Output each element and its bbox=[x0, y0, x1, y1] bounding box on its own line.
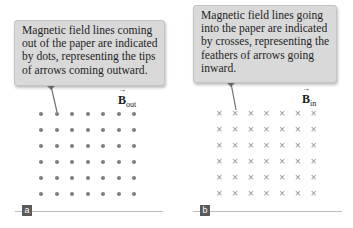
dot-icon bbox=[86, 176, 90, 180]
dot-icon bbox=[70, 192, 74, 196]
cross-icon: × bbox=[295, 109, 302, 119]
cross-icon: × bbox=[216, 141, 223, 151]
cross-icon: × bbox=[232, 141, 239, 151]
vector-subscript: out bbox=[126, 100, 136, 109]
cross-icon: × bbox=[263, 173, 270, 183]
dot-icon bbox=[70, 112, 74, 116]
cross-icon: × bbox=[279, 141, 286, 151]
dot-icon bbox=[101, 160, 105, 164]
vector-symbol: B bbox=[118, 93, 126, 107]
vector-b-out-label: → Bout bbox=[118, 93, 136, 108]
dot-icon bbox=[55, 160, 59, 164]
dot-icon bbox=[117, 160, 121, 164]
dot-icon bbox=[55, 128, 59, 132]
dot-icon bbox=[101, 112, 105, 116]
dot-icon bbox=[132, 192, 136, 196]
callout-a-line: by dots, representing the tips bbox=[22, 50, 158, 63]
callout-b-line: by crosses, representing the bbox=[201, 35, 330, 48]
vector-b-in-label: → Bin bbox=[302, 92, 316, 107]
cross-icon: × bbox=[279, 109, 286, 119]
callout-a-line: Magnetic field lines coming bbox=[22, 24, 158, 37]
dot-icon bbox=[132, 176, 136, 180]
cross-icon: × bbox=[247, 125, 254, 135]
callout-b-line: Magnetic field lines going bbox=[201, 9, 330, 22]
cross-icon: × bbox=[310, 157, 317, 167]
panel-b: Magnetic field lines going into the pape… bbox=[176, 0, 353, 228]
dot-icon bbox=[70, 144, 74, 148]
cross-icon: × bbox=[310, 125, 317, 135]
cross-icon: × bbox=[279, 157, 286, 167]
cross-icon: × bbox=[216, 189, 223, 199]
cross-icon: × bbox=[263, 125, 270, 135]
dot-icon bbox=[117, 112, 121, 116]
vector-arrow-icon: → bbox=[302, 84, 310, 93]
cross-icon: × bbox=[310, 189, 317, 199]
callout-a: Magnetic field lines coming out of the p… bbox=[14, 20, 165, 86]
dot-icon bbox=[117, 192, 121, 196]
panel-a: Magnetic field lines coming out of the p… bbox=[0, 0, 176, 228]
cross-icon: × bbox=[279, 189, 286, 199]
dot-icon bbox=[55, 112, 59, 116]
cross-icon: × bbox=[263, 109, 270, 119]
cross-icon: × bbox=[232, 157, 239, 167]
panel-label-b: b bbox=[200, 205, 210, 216]
dot-icon bbox=[55, 192, 59, 196]
callout-b-line: inward. bbox=[201, 62, 330, 75]
dot-icon bbox=[39, 112, 43, 116]
cross-icon: × bbox=[216, 173, 223, 183]
dot-icon bbox=[39, 176, 43, 180]
cross-icon: × bbox=[247, 157, 254, 167]
dot-icon bbox=[70, 176, 74, 180]
dot-icon bbox=[132, 144, 136, 148]
dot-icon bbox=[132, 112, 136, 116]
dot-icon bbox=[70, 160, 74, 164]
cross-icon: × bbox=[263, 189, 270, 199]
dot-icon bbox=[55, 144, 59, 148]
cross-icon: × bbox=[232, 189, 239, 199]
cross-icon: × bbox=[247, 109, 254, 119]
dot-icon bbox=[132, 160, 136, 164]
cross-icon: × bbox=[279, 125, 286, 135]
dot-icon bbox=[39, 144, 43, 148]
cross-icon: × bbox=[295, 141, 302, 151]
cross-icon: × bbox=[232, 125, 239, 135]
cross-icon: × bbox=[310, 173, 317, 183]
cross-icon: × bbox=[247, 173, 254, 183]
cross-icon: × bbox=[295, 189, 302, 199]
cross-icon: × bbox=[295, 157, 302, 167]
vector-symbol: B bbox=[302, 92, 310, 106]
cross-icon: × bbox=[232, 173, 239, 183]
dot-icon bbox=[39, 128, 43, 132]
dot-icon bbox=[117, 144, 121, 148]
callout-a-line: out of the paper are indicated bbox=[22, 37, 158, 50]
dot-icon bbox=[86, 112, 90, 116]
dot-icon bbox=[101, 128, 105, 132]
cross-icon: × bbox=[295, 125, 302, 135]
dot-icon bbox=[55, 176, 59, 180]
vector-arrow-icon: → bbox=[118, 85, 126, 94]
callout-b-line: into the paper are indicated bbox=[201, 22, 330, 35]
dot-icon bbox=[70, 128, 74, 132]
callout-a-line: of arrows coming outward. bbox=[22, 64, 158, 77]
cross-icon: × bbox=[216, 157, 223, 167]
dot-icon bbox=[86, 128, 90, 132]
panel-label-a: a bbox=[22, 205, 32, 216]
cross-icon: × bbox=[310, 109, 317, 119]
cross-icon: × bbox=[247, 141, 254, 151]
cross-icon: × bbox=[216, 109, 223, 119]
cross-icon: × bbox=[295, 173, 302, 183]
vector-subscript: in bbox=[310, 99, 316, 108]
cross-icon: × bbox=[263, 141, 270, 151]
dot-icon bbox=[86, 144, 90, 148]
dot-icon bbox=[117, 176, 121, 180]
cross-icon: × bbox=[232, 109, 239, 119]
dot-icon bbox=[132, 128, 136, 132]
cross-icon: × bbox=[263, 157, 270, 167]
callout-b: Magnetic field lines going into the pape… bbox=[193, 5, 337, 83]
dot-icon bbox=[117, 128, 121, 132]
dot-icon bbox=[101, 144, 105, 148]
baseline-b bbox=[193, 211, 342, 212]
dot-icon bbox=[101, 192, 105, 196]
cross-icon: × bbox=[310, 141, 317, 151]
dot-icon bbox=[101, 176, 105, 180]
